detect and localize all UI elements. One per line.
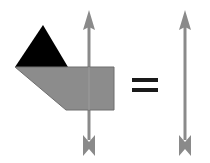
black-triangle-shape xyxy=(15,25,68,67)
grey-pentagon-shape xyxy=(15,67,114,110)
equals-sign-icon xyxy=(132,78,158,92)
diagram-canvas xyxy=(0,0,210,163)
right-arrow-icon xyxy=(179,10,191,156)
